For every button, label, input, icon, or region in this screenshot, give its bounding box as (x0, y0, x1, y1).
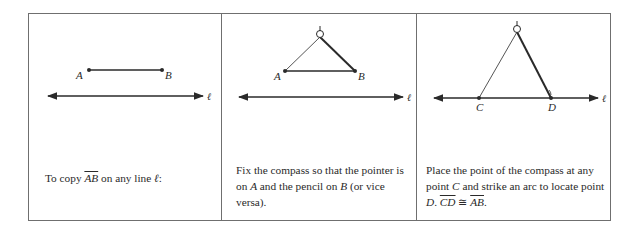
caption-step-1: To copy AB on any line ℓ: (45, 170, 162, 186)
label-a: A (273, 70, 281, 82)
compass-leg-pencil (320, 37, 355, 71)
label-a: A (75, 69, 83, 81)
label-c: C (476, 101, 484, 113)
point-b (160, 68, 164, 72)
compass-leg-pointer (285, 37, 320, 71)
label-l: ℓ (407, 92, 411, 103)
point-b (353, 69, 357, 73)
panel-2-diagram: A B ℓ (239, 26, 411, 103)
point-d (549, 96, 553, 100)
point-a (87, 68, 91, 72)
compass-hinge-icon (317, 31, 324, 38)
label-b: B (165, 69, 172, 81)
label-l: ℓ (602, 93, 606, 104)
point-c (477, 96, 481, 100)
caption-step-3: Place the point of the compass at any po… (426, 162, 611, 210)
caption-step-2: Fix the compass so that the pointer is o… (236, 162, 416, 210)
point-a (283, 69, 287, 73)
compass-leg-pointer (479, 32, 517, 98)
panel-3-diagram: C D ℓ (434, 21, 606, 113)
panel-1-diagram: A B ℓ (48, 68, 211, 102)
compass-leg-pencil (517, 32, 551, 98)
label-b: B (358, 70, 365, 82)
compass-hinge-icon (514, 26, 521, 33)
label-l: ℓ (207, 91, 211, 102)
label-d: D (547, 101, 556, 113)
